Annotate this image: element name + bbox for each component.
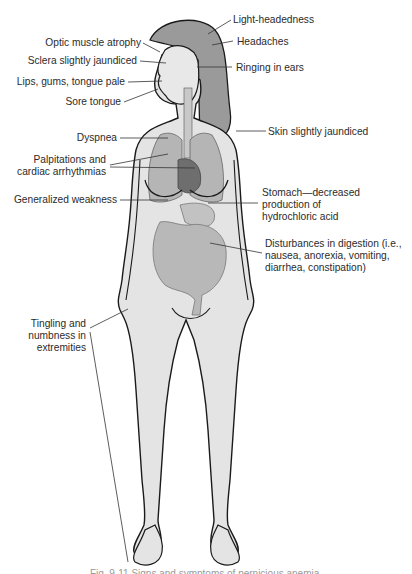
label-ringing-in-ears: Ringing in ears <box>236 62 304 74</box>
label-tingling-line1: Tingling and <box>0 318 86 330</box>
label-skin-jaundiced: Skin slightly jaundiced <box>268 126 368 138</box>
label-digestion-line1: Disturbances in digestion (i.e., <box>265 238 401 250</box>
label-digestion-line3: diarrhea, constipation) <box>265 262 366 274</box>
label-digestion-line2: nausea, anorexia, vomiting, <box>265 250 390 262</box>
figure-caption: Fig. 9-11 Signs and symptoms of pernicio… <box>0 568 412 574</box>
label-stomach-line2: production of <box>262 199 321 211</box>
label-stomach-line1: Stomach—decreased <box>262 187 360 199</box>
foot-left <box>134 525 163 565</box>
label-light-headedness: Light-headedness <box>233 14 314 26</box>
label-headaches: Headaches <box>237 36 289 48</box>
label-sore-tongue: Sore tongue <box>0 96 121 108</box>
label-tingling-line2: numbness in <box>0 330 86 342</box>
foot-right <box>211 525 240 565</box>
label-lips-gums-tongue-pale: Lips, gums, tongue pale <box>0 76 125 88</box>
label-optic-muscle-atrophy: Optic muscle atrophy <box>0 37 141 49</box>
label-palpitations-line1: Palpitations and <box>0 154 106 166</box>
label-generalized-weakness: Generalized weakness <box>0 194 117 206</box>
label-sclera-jaundiced: Sclera slightly jaundiced <box>0 55 137 67</box>
label-palpitations-line2: cardiac arrhythmias <box>0 166 106 178</box>
label-dyspnea: Dyspnea <box>0 132 117 144</box>
label-tingling-line3: extremities <box>0 342 86 354</box>
label-stomach-line3: hydrochloric acid <box>262 211 338 223</box>
